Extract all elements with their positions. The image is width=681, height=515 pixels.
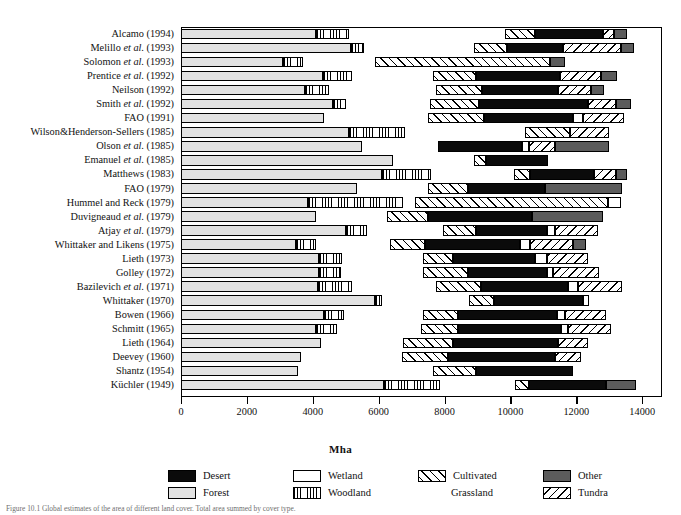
bar-segment-grassland xyxy=(316,211,387,222)
bar-segment-grassland xyxy=(342,253,423,264)
bar-segment-cultivated xyxy=(428,113,484,124)
bar-segment-desert xyxy=(479,99,588,110)
bar-segment-grassland xyxy=(362,141,438,152)
stacked-bar xyxy=(181,29,627,40)
legend-item-wetland[interactable]: Wetland xyxy=(293,470,418,482)
bar-segment-desert xyxy=(458,324,562,335)
bar-row xyxy=(181,280,662,294)
bar-segment-tundra xyxy=(588,99,616,110)
bar-segment-desert xyxy=(529,380,606,391)
chart-figure: Alcamo (1994)Melillo et al. (1993)Solomo… xyxy=(0,0,681,515)
bar-segment-wetland xyxy=(557,310,565,321)
stacked-bar xyxy=(181,127,609,138)
bar-segment-cultivated xyxy=(428,183,468,194)
stacked-bar xyxy=(181,239,586,250)
bar-segment-woodland xyxy=(333,99,346,110)
bar-segment-desert xyxy=(458,310,557,321)
y-axis-label: Lieth (1973) xyxy=(0,252,178,266)
bar-segment-desert xyxy=(484,113,573,124)
bar-segment-woodland xyxy=(324,310,344,321)
bar-segment-tundra xyxy=(558,85,591,96)
bar-segment-tundra xyxy=(553,267,599,278)
legend-item-tundra[interactable]: Tundra xyxy=(543,487,668,499)
legend-item-desert[interactable]: Desert xyxy=(168,470,293,482)
bar-segment-tundra xyxy=(558,338,588,349)
y-axis-labels: Alcamo (1994)Melillo et al. (1993)Solomo… xyxy=(0,27,178,392)
bar-segment-grassland xyxy=(440,380,516,391)
bar-segment-cultivated xyxy=(433,71,476,82)
bar-segment-other xyxy=(601,71,617,82)
bar-segment-forest xyxy=(181,281,318,292)
bar-segment-cultivated xyxy=(474,155,486,166)
legend-label: Grassland xyxy=(451,487,493,498)
stacked-bar xyxy=(181,380,636,391)
x-axis-tick-label: 14000 xyxy=(629,406,655,417)
stacked-bar xyxy=(181,197,621,208)
bar-segment-cultivated xyxy=(423,267,467,278)
bar-segment-cultivated xyxy=(430,99,479,110)
bar-segment-forest xyxy=(181,310,324,321)
bar-segment-desert xyxy=(428,211,532,222)
bar-segment-grassland xyxy=(393,155,474,166)
y-axis-label: Lieth (1964) xyxy=(0,336,178,350)
bar-segment-forest xyxy=(181,253,319,264)
bar-segment-forest xyxy=(181,99,333,110)
bar-segment-tundra xyxy=(603,29,615,40)
legend-label: Wetland xyxy=(328,470,363,481)
bar-segment-cultivated xyxy=(403,338,452,349)
bar-segment-desert xyxy=(507,43,563,54)
bar-row xyxy=(181,167,662,181)
bar-row xyxy=(181,252,662,266)
bar-segment-desert xyxy=(476,225,547,236)
y-axis-label: Schmitt (1965) xyxy=(0,322,178,336)
legend-item-woodland[interactable]: Woodland xyxy=(293,487,418,499)
bar-segment-grassland xyxy=(298,366,433,377)
bar-segment-cultivated xyxy=(514,169,530,180)
legend-item-grassland[interactable]: Grassland xyxy=(418,487,543,498)
bar-segment-cultivated xyxy=(421,324,457,335)
y-axis-label: Hummel and Reck (1979) xyxy=(0,196,178,210)
bar-row xyxy=(181,153,662,167)
bar-row xyxy=(181,336,662,350)
bar-segment-woodland xyxy=(346,225,367,236)
x-axis: 02000400060008000100001200014000 xyxy=(181,397,662,398)
bar-segment-desert xyxy=(530,169,594,180)
bar-segment-forest xyxy=(181,352,301,363)
y-axis-label: Bazilevich et al. (1971) xyxy=(0,280,178,294)
bar-segment-grassland xyxy=(346,99,430,110)
legend-item-other[interactable]: Other xyxy=(543,470,668,482)
bar-segment-grassland xyxy=(321,338,403,349)
bar-segment-wetland xyxy=(561,324,568,335)
bar-segment-forest xyxy=(181,155,393,166)
bar-segment-woodland xyxy=(316,29,349,40)
stacked-bar xyxy=(181,99,631,110)
bar-row xyxy=(181,27,662,41)
bar-row xyxy=(181,55,662,69)
bar-segment-cultivated xyxy=(474,43,507,54)
y-axis-label: Solomon et al. (1993) xyxy=(0,55,178,69)
stacked-bar xyxy=(181,310,606,321)
bar-segment-grassland xyxy=(301,352,401,363)
legend-swatch-tundra-icon xyxy=(543,487,571,499)
bar-segment-wetland xyxy=(535,253,547,264)
bar-segment-desert xyxy=(448,352,555,363)
bar-segment-cultivated xyxy=(443,225,476,236)
x-axis-tick-label: 10000 xyxy=(498,406,524,417)
bar-segment-wetland xyxy=(522,141,529,152)
legend-item-forest[interactable]: Forest xyxy=(168,487,293,499)
stacked-bar xyxy=(181,71,618,82)
bar-segment-grassland xyxy=(324,113,428,124)
bar-segment-other xyxy=(616,169,628,180)
y-axis-label: Küchler (1949) xyxy=(0,378,178,392)
bar-segment-forest xyxy=(181,295,375,306)
bar-segment-desert xyxy=(468,183,545,194)
bar-segment-wetland xyxy=(573,113,583,124)
bar-segment-tundra xyxy=(570,127,610,138)
y-axis-label: Neilson (1992) xyxy=(0,83,178,97)
legend-item-cultivated[interactable]: Cultivated xyxy=(418,470,543,482)
stacked-bar xyxy=(181,253,588,264)
y-axis-label: Whittaker (1970) xyxy=(0,294,178,308)
bar-segment-forest xyxy=(181,183,357,194)
y-axis-label: FAO (1979) xyxy=(0,182,178,196)
bar-segment-wetland xyxy=(520,239,530,250)
